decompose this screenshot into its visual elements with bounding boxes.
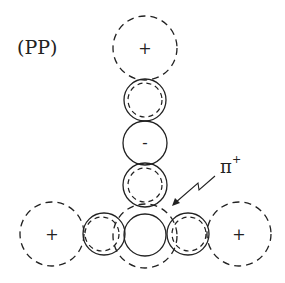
left-charge: + xyxy=(45,225,58,244)
right-positive-cloud: + xyxy=(207,202,271,266)
lower-inner-dashed-circle xyxy=(128,168,162,202)
center-solid-circle xyxy=(124,214,166,256)
right-solid-circle xyxy=(167,213,209,255)
pp-label: (PP) xyxy=(17,36,57,58)
upper-solid-circle xyxy=(124,79,166,121)
middle-negative-node: - xyxy=(123,121,167,165)
zigzag-arrow-line xyxy=(175,176,215,203)
left-small-node xyxy=(83,213,125,255)
left-positive-cloud: + xyxy=(20,202,84,266)
upper-inner-dashed-circle xyxy=(128,83,162,117)
upper-small-node xyxy=(124,79,166,121)
lower-solid-circle xyxy=(123,163,167,207)
right-charge: + xyxy=(232,225,245,244)
top-positive-cloud: + xyxy=(113,16,177,80)
right-small-node xyxy=(167,213,209,255)
left-inner-dashed-circle xyxy=(85,217,119,251)
pp-diagram: (PP) + - + + xyxy=(0,0,285,283)
pion-charge: + xyxy=(232,153,241,166)
pion-symbol: π xyxy=(220,156,232,177)
pion-label: π + xyxy=(220,153,241,177)
middle-charge: - xyxy=(142,133,147,152)
pion-arrow xyxy=(172,176,215,206)
lower-small-node xyxy=(123,163,167,207)
top-charge: + xyxy=(138,39,151,58)
